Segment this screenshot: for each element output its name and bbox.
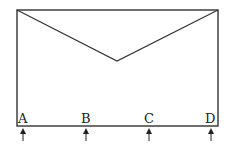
label-d: D — [205, 111, 215, 126]
frame-rectangle — [17, 10, 218, 126]
label-c: C — [144, 111, 154, 126]
label-b: B — [81, 111, 91, 126]
label-a: A — [17, 111, 28, 126]
v-line — [17, 10, 218, 61]
envelope-diagram: A B C D — [0, 0, 230, 151]
